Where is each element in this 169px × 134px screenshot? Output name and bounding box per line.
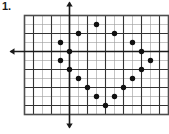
data-point	[85, 85, 90, 90]
data-point	[67, 67, 72, 72]
y-axis-up-arrow-icon	[66, 2, 72, 7]
data-point	[130, 40, 135, 45]
data-point	[139, 67, 144, 72]
minor-grid-lines	[25, 16, 169, 115]
data-point	[76, 76, 81, 81]
data-point	[94, 94, 99, 99]
data-point	[112, 31, 117, 36]
data-point	[121, 85, 126, 90]
data-point	[112, 94, 117, 99]
data-point	[67, 49, 72, 54]
x-axis-left-arrow-icon	[10, 48, 15, 54]
data-point	[103, 103, 108, 108]
data-point	[148, 58, 153, 63]
data-point	[58, 58, 63, 63]
y-axis-down-arrow-icon	[66, 124, 72, 129]
coordinate-grid-figure	[0, 0, 169, 134]
data-point	[76, 31, 81, 36]
data-point	[58, 40, 63, 45]
data-point	[130, 76, 135, 81]
data-point	[94, 22, 99, 27]
scatter-plot-svg	[0, 0, 169, 134]
data-point	[139, 49, 144, 54]
